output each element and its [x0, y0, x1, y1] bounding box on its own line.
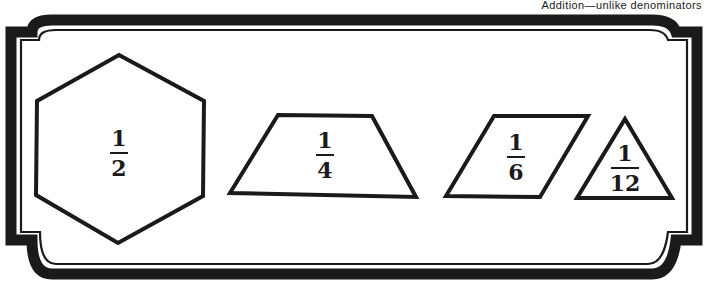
denominator: 2	[111, 157, 126, 179]
fraction-bar	[611, 167, 639, 169]
fraction-one-sixth: 1 6	[504, 131, 528, 183]
fraction-bar	[507, 156, 525, 158]
denominator: 4	[317, 159, 332, 181]
fraction-bar	[316, 154, 334, 156]
denominator: 6	[508, 161, 523, 183]
numerator: 1	[508, 131, 523, 153]
numerator: 1	[617, 142, 632, 164]
numerator: 1	[111, 127, 126, 149]
fraction-one-twelfth: 1 12	[607, 142, 643, 194]
fraction-bar	[110, 152, 128, 154]
fraction-one-half: 1 2	[107, 127, 131, 179]
numerator: 1	[317, 129, 332, 151]
fraction-one-fourth: 1 4	[313, 129, 337, 181]
denominator: 12	[610, 172, 641, 194]
